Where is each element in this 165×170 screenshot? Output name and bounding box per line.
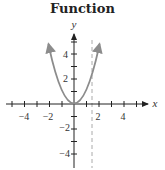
x-tick-label: −2: [43, 111, 54, 122]
y-tick-label: −4: [59, 148, 70, 159]
x-tick-label: 4: [121, 111, 126, 122]
chart-plot: −4 −2 2 4 4 2 −2 −4 x y: [0, 0, 165, 170]
y-tick-label: 4: [63, 49, 68, 60]
x-tick-label: −4: [19, 111, 30, 122]
x-tick-label: 2: [96, 111, 101, 122]
y-tick-label: 2: [63, 73, 68, 84]
y-tick-label: −2: [59, 122, 70, 133]
x-axis-label: x: [152, 97, 158, 109]
y-axis-label: y: [71, 18, 77, 30]
